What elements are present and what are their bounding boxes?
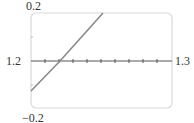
plot-area xyxy=(0,0,194,123)
function-curve xyxy=(31,13,103,91)
